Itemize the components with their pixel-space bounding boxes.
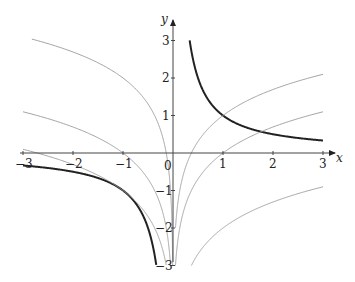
y-tick-label: 2 bbox=[162, 71, 170, 85]
log-curve bbox=[191, 187, 323, 266]
y-tick-label: −1 bbox=[155, 184, 173, 198]
log-curve bbox=[175, 74, 323, 228]
x-tick-label: −2 bbox=[65, 157, 83, 171]
x-tick-label: 2 bbox=[269, 157, 277, 171]
log-curve bbox=[32, 39, 173, 265]
y-tick-label: −2 bbox=[155, 221, 173, 235]
y-tick-label: 1 bbox=[162, 109, 170, 123]
log-curve bbox=[175, 112, 323, 266]
function-plot: −3−2−1123 −3−2−1123 x y 0 bbox=[0, 0, 355, 282]
y-tick-label: 3 bbox=[162, 34, 170, 48]
y-axis-label: y bbox=[160, 12, 168, 26]
x-tick-label: 1 bbox=[219, 157, 227, 171]
x-tick-label: 3 bbox=[319, 157, 327, 171]
hyperbola-curve bbox=[190, 40, 323, 140]
hyperbola-curve bbox=[23, 166, 156, 265]
x-axis-label: x bbox=[336, 151, 343, 165]
x-tick-label: −1 bbox=[115, 157, 133, 171]
log-curve bbox=[23, 112, 171, 266]
origin-label: 0 bbox=[164, 159, 172, 173]
y-tick-label: −3 bbox=[155, 259, 173, 273]
x-tick-label: −3 bbox=[15, 157, 33, 171]
